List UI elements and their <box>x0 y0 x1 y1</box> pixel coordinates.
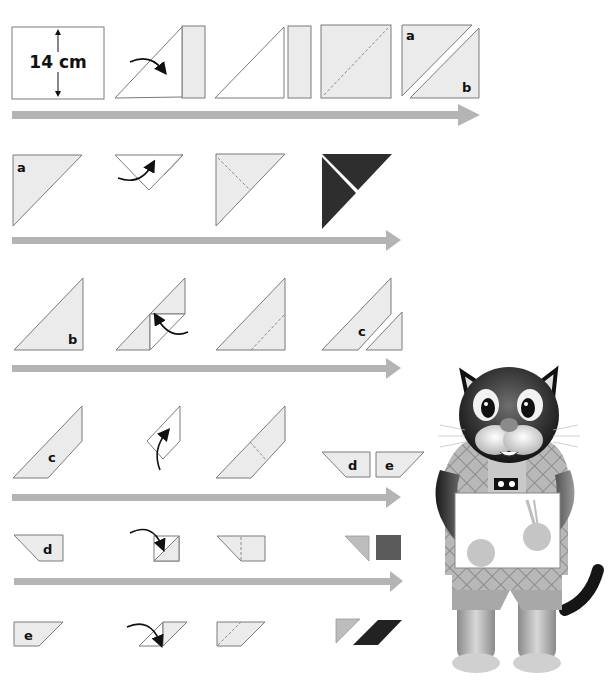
row-2: a <box>12 154 401 251</box>
tail <box>565 570 598 610</box>
step-fold-corner <box>130 530 179 561</box>
progress-arrow-1 <box>12 104 480 126</box>
cat-illustration <box>436 367 599 673</box>
piece-c-label: c <box>358 324 366 339</box>
piece-c-label: c <box>48 450 56 465</box>
piece-b-label: b <box>462 80 471 95</box>
piece-d-label: d <box>43 542 52 557</box>
step-fold-corner <box>127 622 187 646</box>
step-strip-c: c <box>13 406 82 478</box>
step-trapezoid-d: d <box>14 535 63 561</box>
step-crease-diagonal <box>321 25 391 98</box>
piece-e-label: e <box>385 458 394 473</box>
step-fold-up <box>147 406 180 470</box>
step-triangle-square <box>345 535 401 561</box>
step-fold-diagonal <box>115 26 205 98</box>
step-crease <box>216 278 285 350</box>
step-crease <box>216 154 285 226</box>
progress-arrow-5 <box>14 571 403 592</box>
step-triangles-a-b: a b <box>402 25 479 98</box>
step-square-sheet: 14 cm <box>12 27 104 99</box>
folding-diagram: 14 cm a b a <box>0 0 610 682</box>
row-1: 14 cm a b <box>12 25 480 126</box>
step-fold-corner <box>116 278 188 350</box>
step-trapezoid-e: e <box>14 622 63 646</box>
row-6: e <box>14 619 402 646</box>
step-triangle-b: b <box>14 278 83 350</box>
step-fold-tip <box>115 155 183 190</box>
step-crease <box>216 406 285 478</box>
step-triangle-a: a <box>13 155 82 226</box>
step-pieces-d-e: d e <box>322 452 424 477</box>
step-crease <box>217 622 265 646</box>
row-4: c d e <box>12 406 424 508</box>
piece-a-label: a <box>406 28 415 43</box>
row-3: b c <box>12 278 402 379</box>
progress-arrow-3 <box>12 358 401 379</box>
step-piece-c: c <box>322 278 402 350</box>
step-cut-strip <box>215 26 311 98</box>
piece-e-label: e <box>24 628 33 643</box>
piece-d-label: d <box>348 458 357 473</box>
step-crease <box>217 536 265 561</box>
step-dark-triangles <box>322 154 392 229</box>
row-5: d <box>14 530 403 592</box>
progress-arrow-4 <box>12 487 401 508</box>
size-label: 14 cm <box>29 52 86 72</box>
step-triangle-parallelogram <box>336 619 402 645</box>
progress-arrow-2 <box>12 230 401 251</box>
piece-a-label: a <box>17 160 26 175</box>
piece-b-label: b <box>68 332 77 347</box>
